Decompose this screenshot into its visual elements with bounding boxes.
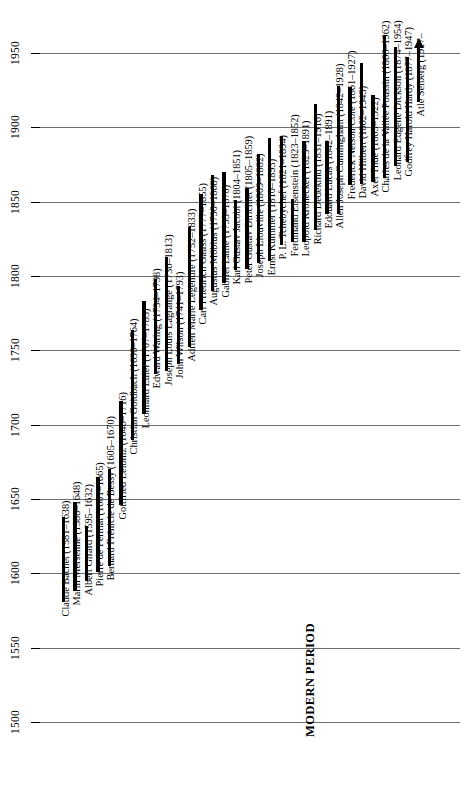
name-label: Frederick Nelson Cole (1861–1927) <box>346 51 356 200</box>
tick-label-1900: 1900 <box>9 112 21 142</box>
tick-label-1550: 1550 <box>9 633 21 663</box>
tick-mark-1650 <box>31 499 40 500</box>
tick-mark-1500 <box>31 722 40 723</box>
name-label: Leonhard Euler (1707–1783) <box>140 309 150 429</box>
name-label: Karl Gustav Jacobi (1804–1851) <box>232 150 242 284</box>
name-label: Albert Girard (1595–1632) <box>83 484 93 595</box>
name-label: P. L. Tchebychef (1821–1894) <box>278 135 288 259</box>
tick-label-1950: 1950 <box>9 38 21 68</box>
name-label: Christian Goldbach (1690–1764) <box>129 318 139 454</box>
tick-mark-1850 <box>31 202 40 203</box>
name-label: Claude Bachet (1581–1638) <box>60 500 70 616</box>
name-label: Pierre de Fermat (1601–1665) <box>95 462 105 586</box>
name-label: Carl Friedrich Gauss (1777–1855) <box>198 183 208 324</box>
gridline-1700 <box>40 425 460 426</box>
tick-label-1600: 1600 <box>9 558 21 588</box>
tick-mark-1600 <box>31 573 40 574</box>
tick-label-1650: 1650 <box>9 484 21 514</box>
tick-mark-1700 <box>31 425 40 426</box>
tick-mark-1550 <box>31 648 40 649</box>
name-label: Leopold Kronecker (1823–1891) <box>301 120 311 256</box>
name-label: Adrien Marie Legendre (1752–1833) <box>186 209 196 362</box>
name-label: Leonard Eugene Dickson (1874–1954) <box>392 20 402 180</box>
name-label: Ferdinand Eisenstein (1823–1852) <box>289 114 299 256</box>
tick-mark-1750 <box>31 350 40 351</box>
name-label: Richard Dedekind (1831–1916) <box>312 114 322 245</box>
name-label: Joseph Louis Lagrange (1736–1813) <box>163 235 173 386</box>
name-label: Edouard Lucas (1842–1891) <box>324 110 334 228</box>
name-label: Augustus Möbius (1790–1868) <box>209 177 219 306</box>
name-label: Edward Waring (1734–1798) <box>152 268 162 388</box>
name-label: Peter Gustav Dirichlet (1805–1859) <box>243 135 253 283</box>
timeline-figure: 1500155016001650170017501800185019001950… <box>0 0 468 812</box>
name-label: Godfrey Harold Hardy (1877–1947) <box>404 27 414 176</box>
name-label: Joseph Liouville (1809–1882) <box>255 153 265 277</box>
name-label: Allen Joseph Cunningham (1842–1928) <box>335 63 345 228</box>
tick-label-1850: 1850 <box>9 187 21 217</box>
gridline-1750 <box>40 350 460 351</box>
tick-mark-1900 <box>31 127 40 128</box>
tick-mark-1950 <box>31 53 40 54</box>
name-label: David Hilbert (1862–1943) <box>358 86 368 198</box>
tick-label-1500: 1500 <box>9 707 21 737</box>
name-label: Bernard Frénicle de Bessy (1605–1670) <box>106 416 116 580</box>
name-label: Atle Selberg (1917– <box>415 33 425 116</box>
tick-label-1750: 1750 <box>9 335 21 365</box>
name-label: Marin Mersenne (1588–1648) <box>72 482 82 606</box>
gridline-1500 <box>40 722 460 723</box>
gridline-1550 <box>40 648 460 649</box>
name-label: Ernst Kummer (1810–1893) <box>266 159 276 276</box>
tick-mark-1800 <box>31 276 40 277</box>
name-label: Charles de la Vallée Poussin (1866–1962) <box>381 20 391 192</box>
name-label: Axel Thue (1863–1922) <box>369 98 379 197</box>
name-label: John Wilson (1741–1793) <box>175 271 185 378</box>
era-label: MODERN PERIOD <box>303 623 318 737</box>
tick-label-1700: 1700 <box>9 410 21 440</box>
tick-label-1800: 1800 <box>9 261 21 291</box>
name-label: Gabriel Lamé (1795–1870) <box>220 185 230 297</box>
name-label: Gottfried Leibniz (1646–1716) <box>117 392 127 519</box>
